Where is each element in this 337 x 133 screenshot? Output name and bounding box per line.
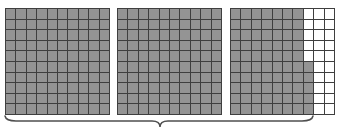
grid-cell (201, 9, 211, 20)
grid-cell (89, 30, 99, 41)
grid-cell (100, 41, 110, 52)
grid-cell (231, 94, 241, 105)
grid-cell (262, 41, 272, 52)
grid-cell (314, 41, 324, 52)
figure-canvas (0, 0, 337, 133)
grid-cell (212, 20, 222, 31)
grid-cell (100, 94, 110, 105)
grid-cell (118, 51, 128, 62)
grid-cell (79, 73, 89, 84)
grid-cell (170, 41, 180, 52)
grid-cell (191, 30, 201, 41)
grid-cell (191, 73, 201, 84)
grid-cell (231, 30, 241, 41)
grid-cell (89, 73, 99, 84)
grid-cell (170, 51, 180, 62)
grid-cell (58, 73, 68, 84)
grid-cell (27, 41, 37, 52)
grid-cell (180, 73, 190, 84)
grid-cell (58, 20, 68, 31)
grid-cell (170, 83, 180, 94)
grid-cell (79, 62, 89, 73)
grid-cell (79, 9, 89, 20)
grid-cell (37, 94, 47, 105)
grid-cell (149, 51, 159, 62)
grid-cell (16, 20, 26, 31)
grid-cell (325, 62, 335, 73)
grid-cell (252, 94, 262, 105)
grid-cell (89, 41, 99, 52)
grid-cell (262, 20, 272, 31)
grid-cell (293, 41, 303, 52)
grid-cell (252, 73, 262, 84)
grid-cell (6, 9, 16, 20)
grid-cell (231, 41, 241, 52)
grid-cell (139, 30, 149, 41)
grid-cell (231, 73, 241, 84)
grid-cell (262, 30, 272, 41)
grid-cell (100, 73, 110, 84)
grid-cell (191, 51, 201, 62)
grid-cell (201, 94, 211, 105)
grid-cell (325, 51, 335, 62)
grid-cell (118, 83, 128, 94)
grid-cell (262, 73, 272, 84)
grid-cell (170, 30, 180, 41)
grid-cell (283, 9, 293, 20)
grid-cell (6, 20, 16, 31)
grid-cell (27, 20, 37, 31)
grid-cell (241, 94, 251, 105)
grid-cell (191, 20, 201, 31)
grid-cell (48, 41, 58, 52)
grid-cell (16, 62, 26, 73)
grid-cell (48, 83, 58, 94)
grid-cell (79, 51, 89, 62)
grid-cell (79, 94, 89, 105)
grid-cell (100, 83, 110, 94)
grid-cell (37, 83, 47, 94)
grid-cell (68, 20, 78, 31)
grid-cell (27, 73, 37, 84)
grid-cell (68, 83, 78, 94)
grid-cell (58, 30, 68, 41)
grid-cell (170, 62, 180, 73)
grid-cell (68, 51, 78, 62)
grid-cell (283, 51, 293, 62)
grid-cell (48, 73, 58, 84)
grid-cell (191, 41, 201, 52)
grid-cell (37, 20, 47, 31)
grid-cell (180, 62, 190, 73)
grid-cell (325, 9, 335, 20)
grid-cell (6, 41, 16, 52)
grid-cell (241, 30, 251, 41)
grid-cell (139, 62, 149, 73)
grid-cell (48, 20, 58, 31)
grid-cell (58, 51, 68, 62)
grid-cell (231, 62, 241, 73)
grid-cell (283, 83, 293, 94)
grid-cell (160, 83, 170, 94)
grid-cell (201, 62, 211, 73)
grid-cell (58, 62, 68, 73)
grid-cell (149, 73, 159, 84)
grid-cell (89, 20, 99, 31)
grid-cell (283, 41, 293, 52)
grid-cell (314, 73, 324, 84)
grid-cell (58, 9, 68, 20)
grid-cell (68, 9, 78, 20)
grid-cell (37, 41, 47, 52)
grid-cell (273, 20, 283, 31)
grid-cell (89, 83, 99, 94)
grid-cell (48, 94, 58, 105)
grid-cell (304, 51, 314, 62)
grid-cell (16, 73, 26, 84)
grid-cell (6, 62, 16, 73)
grid-cell (100, 9, 110, 20)
grid-cell (16, 30, 26, 41)
hundredths-grid-1 (5, 8, 110, 115)
grid-cell (118, 73, 128, 84)
grid-cell (180, 41, 190, 52)
grid-cell (231, 9, 241, 20)
grid-cell (149, 94, 159, 105)
grid-cell (191, 94, 201, 105)
